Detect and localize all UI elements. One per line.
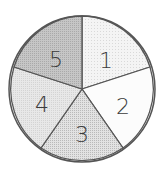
sector-5-label: 5 bbox=[49, 47, 63, 72]
sector-3-label: 3 bbox=[75, 122, 89, 147]
sector-1-label: 1 bbox=[99, 48, 113, 73]
pie-diagram: 1 2 3 4 5 bbox=[0, 0, 163, 176]
sector-2-label: 2 bbox=[116, 94, 130, 119]
sector-4-label: 4 bbox=[35, 92, 49, 117]
